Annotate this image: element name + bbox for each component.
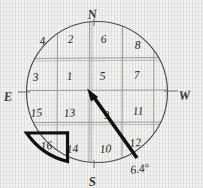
grid-line-h2 [22,90,174,91]
cell-number: 5 [99,70,106,82]
cell-number: 4 [39,34,46,47]
cell-number: 11 [132,104,143,117]
cell-number: 16 [40,139,53,152]
compass-diagram: 4 2 6 8 3 1 5 7 15 13 9 11 16 14 10 12 N… [0,0,203,188]
compass-label-south: S [88,174,96,188]
grid-line-v4 [154,22,155,162]
cell-number: 15 [30,106,43,119]
cell-number: 1 [66,70,73,82]
grid-line-h1b [24,60,172,61]
grid-line-v3 [122,18,123,166]
grid-line-v1 [57,18,58,166]
cell-number: 10 [99,142,112,155]
grid-line-h1 [24,58,172,59]
cell-number: 13 [63,106,76,119]
cell-number: 8 [134,39,141,51]
cell-number: 3 [31,71,39,83]
angle-label: 6.4° [129,161,150,176]
compass-label-east: E [2,88,13,104]
compass-label-west: W [178,87,192,103]
cell-number: 6 [100,33,107,45]
direction-arrow [87,89,137,158]
grid-line-h3b [24,125,172,126]
cell-number: 7 [133,69,141,81]
cell-number: 14 [66,142,79,155]
figure-canvas: 4 2 6 8 3 1 5 7 15 13 9 11 16 14 10 12 N… [0,0,203,188]
compass-label-north: N [86,6,99,22]
cell-number: 2 [67,33,74,45]
cell-numbers: 4 2 6 8 3 1 5 7 15 13 9 11 16 14 10 12 [30,33,144,155]
grid-line-h3 [24,122,172,123]
